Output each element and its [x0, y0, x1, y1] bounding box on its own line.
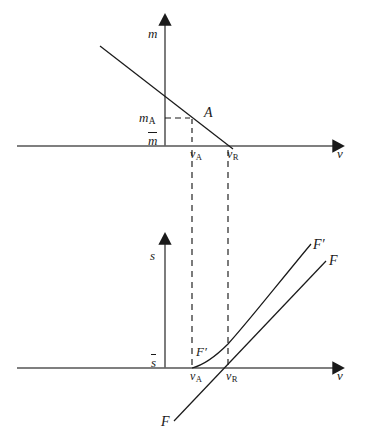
diagram-svg	[0, 0, 369, 445]
lower-v-a-label: vA	[190, 370, 202, 384]
m-bar-label: m	[148, 134, 157, 147]
lower-x-axis-label: v	[337, 369, 343, 382]
curve-f-upper-label: F	[329, 254, 338, 268]
curve-f-lower-label: F	[161, 415, 170, 429]
point-a-label: A	[204, 106, 213, 120]
upper-v-r-label: vR	[227, 148, 238, 162]
upper-y-axis-label: m	[148, 27, 157, 40]
lower-v-r-label: vR	[226, 370, 237, 384]
curve-f-prime	[192, 244, 311, 368]
lower-y-axis-label: s	[150, 249, 155, 262]
figure-canvas: m v A mA m vA vR s v s vA vR F′ F′ F F	[0, 0, 369, 445]
curve-f-prime-inner-label: F′	[196, 345, 207, 358]
curve-f-prime-label: F′	[313, 238, 325, 252]
projection-connectors	[192, 150, 228, 365]
m-a-label: mA	[139, 111, 155, 126]
s-bar-label: s	[151, 356, 156, 369]
line-f	[174, 261, 326, 421]
upper-sloping-line	[100, 46, 233, 149]
upper-x-axis-label: v	[337, 147, 343, 160]
upper-plot-group	[17, 24, 334, 149]
lower-plot-group	[17, 243, 334, 421]
upper-v-a-label: vA	[190, 148, 202, 162]
